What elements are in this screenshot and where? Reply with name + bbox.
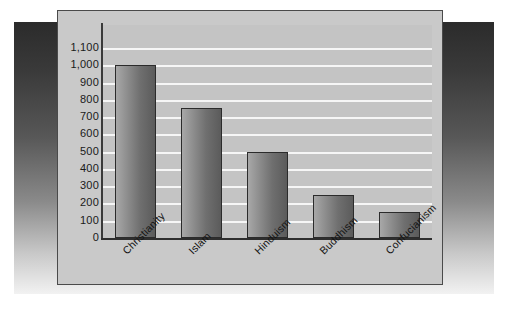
chart-panel: 1,1001,0009008007006005004003002001000 C…: [57, 10, 443, 285]
y-axis-tick-label: 900: [59, 77, 99, 88]
y-axis-tick-label: 600: [59, 128, 99, 139]
bars-layer: [103, 25, 432, 238]
y-axis-tick-label: 300: [59, 180, 99, 191]
y-axis-tick-label: 400: [59, 163, 99, 174]
y-axis-tick-label: 800: [59, 94, 99, 105]
bar: [181, 108, 222, 238]
y-axis-tick-label: 1,100: [59, 42, 99, 53]
x-axis-category-labels: ChristianityIslamHinduismBuddhismConfuci…: [103, 242, 432, 286]
y-axis-tick-label: 1,000: [59, 59, 99, 70]
y-axis-tick-labels: 1,1001,0009008007006005004003002001000: [58, 11, 99, 286]
bar: [115, 65, 156, 238]
y-axis-tick-label: 700: [59, 111, 99, 122]
y-axis-tick-label: 200: [59, 197, 99, 208]
y-axis-tick-label: 0: [59, 232, 99, 243]
y-axis-tick-label: 500: [59, 146, 99, 157]
y-axis-tick-label: 100: [59, 215, 99, 226]
chart-screenshot: 1,1001,0009008007006005004003002001000 C…: [0, 0, 509, 327]
